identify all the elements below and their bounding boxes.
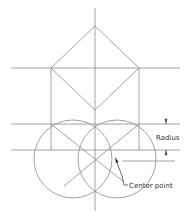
center-point-label: Center point	[129, 182, 173, 190]
geometric-construction-diagram: Radius Center point	[0, 0, 190, 222]
radius-label: Radius	[156, 134, 180, 142]
radius-arrow-top-icon	[165, 119, 168, 124]
left-circle	[34, 120, 112, 198]
center-point-arrow-icon	[115, 157, 119, 163]
radius-arrow-bottom-icon	[165, 150, 168, 155]
diagonal-line-left-to-right	[51, 124, 124, 182]
center-point-leader	[116, 160, 128, 185]
diagonal-line-right-to-left	[64, 124, 139, 186]
